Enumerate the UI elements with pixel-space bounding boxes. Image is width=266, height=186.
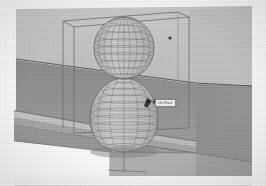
top-white-strip <box>0 0 266 6</box>
ground-plane-right <box>196 84 252 162</box>
modeling-viewport[interactable]: On Face <box>0 0 266 186</box>
scene-canvas[interactable] <box>0 0 266 186</box>
contact-shadow <box>90 146 158 158</box>
endpoint-marker-icon <box>168 36 171 39</box>
bottom-white-strip <box>0 176 266 186</box>
right-white-strip <box>252 0 266 186</box>
inference-tooltip: On Face <box>155 99 176 107</box>
back-wall-right-panel <box>189 6 252 86</box>
left-white-strip <box>0 0 14 186</box>
